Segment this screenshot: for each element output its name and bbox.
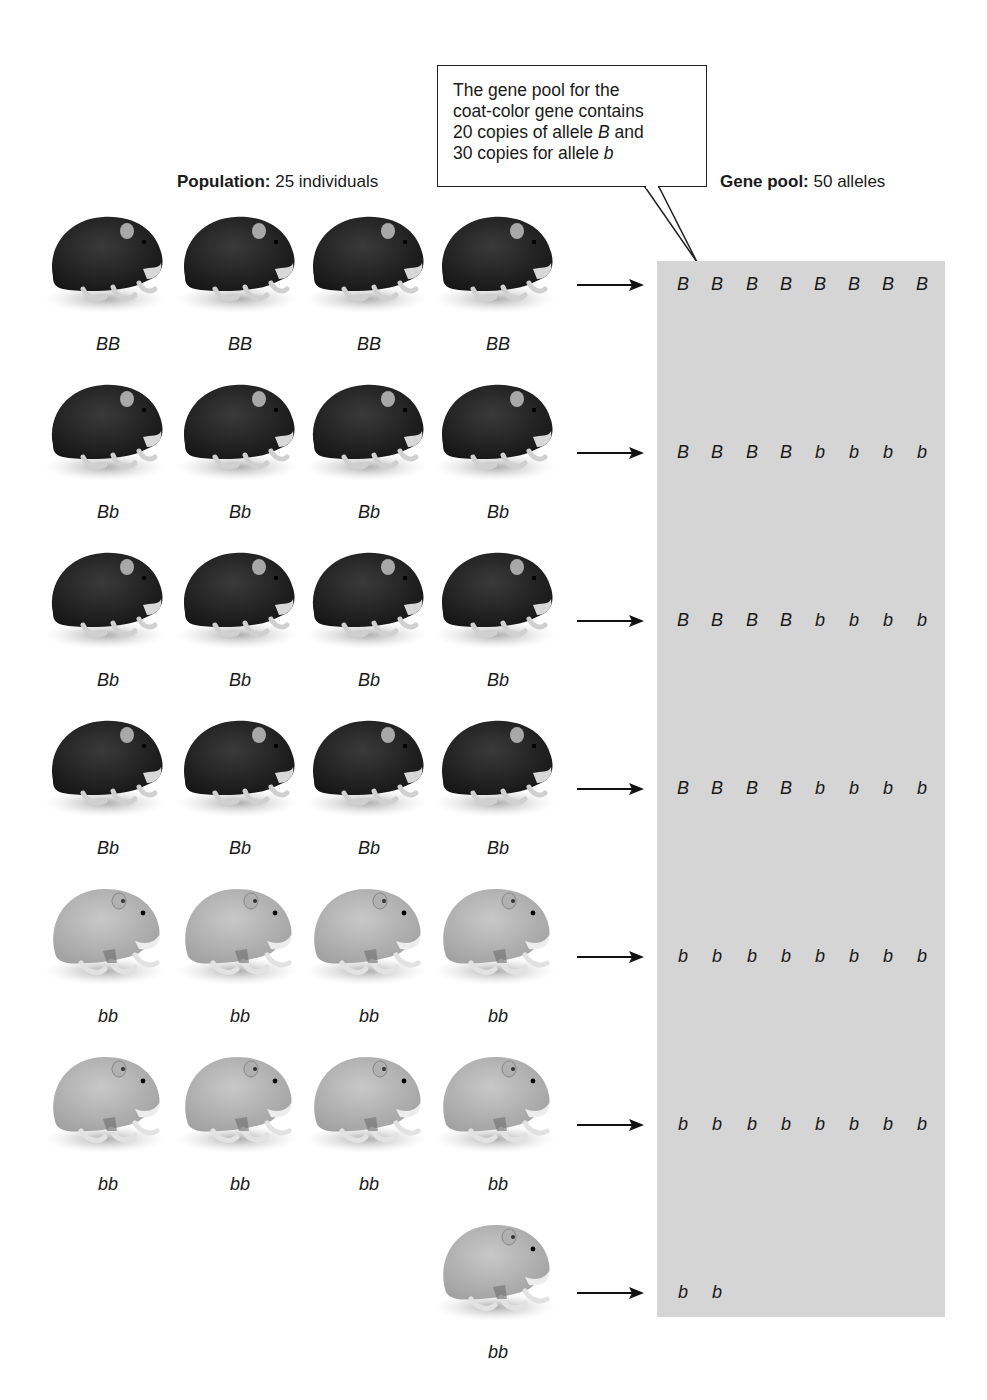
genotype-label: bb	[468, 1006, 528, 1027]
genotype-label: Bb	[78, 670, 138, 691]
genotype-label: BB	[210, 334, 270, 355]
allele: b	[912, 1114, 932, 1135]
genotype-label: Bb	[210, 502, 270, 523]
light-hamster	[43, 879, 173, 989]
allele: b	[878, 946, 898, 967]
allele: B	[742, 610, 762, 631]
genotype-label: BB	[468, 334, 528, 355]
allele: b	[673, 1282, 693, 1303]
allele: b	[673, 1114, 693, 1135]
allele: b	[673, 946, 693, 967]
allele: b	[912, 946, 932, 967]
light-hamster	[175, 1047, 305, 1157]
genotype-label: Bb	[210, 670, 270, 691]
allele: B	[742, 442, 762, 463]
allele: b	[912, 778, 932, 799]
dark-hamster	[433, 711, 563, 821]
population-heading: Population: 25 individuals	[177, 172, 378, 192]
allele: b	[844, 1114, 864, 1135]
callout-line-3: 20 copies of allele B and	[453, 122, 703, 143]
genotype-label: bb	[468, 1174, 528, 1195]
light-hamster	[433, 1047, 563, 1157]
genotype-label: BB	[78, 334, 138, 355]
genotype-label: bb	[468, 1342, 528, 1363]
allele: B	[776, 442, 796, 463]
genotype-label: Bb	[339, 838, 399, 859]
allele: b	[707, 1114, 727, 1135]
dark-hamster	[433, 375, 563, 485]
allele: b	[844, 442, 864, 463]
arrow-right-icon	[577, 1286, 647, 1300]
allele: b	[742, 946, 762, 967]
dark-hamster	[43, 543, 173, 653]
callout-line-4: 30 copies for allele b	[453, 143, 703, 164]
allele: b	[810, 610, 830, 631]
allele: B	[707, 610, 727, 631]
genotype-label: Bb	[468, 670, 528, 691]
dark-hamster	[433, 543, 563, 653]
light-hamster	[304, 879, 434, 989]
allele: B	[673, 610, 693, 631]
arrow-right-icon	[577, 950, 647, 964]
allele: B	[912, 274, 932, 295]
genotype-label: Bb	[210, 838, 270, 859]
allele: b	[844, 610, 864, 631]
gene-pool-heading: Gene pool: 50 alleles	[720, 172, 885, 192]
allele: b	[878, 442, 898, 463]
arrow-right-icon	[577, 614, 647, 628]
allele: B	[776, 610, 796, 631]
allele: B	[742, 778, 762, 799]
dark-hamster	[433, 207, 563, 317]
dark-hamster	[304, 375, 434, 485]
allele: B	[673, 442, 693, 463]
dark-hamster	[175, 375, 305, 485]
allele: B	[844, 274, 864, 295]
genotype-label: bb	[210, 1006, 270, 1027]
dark-hamster	[304, 543, 434, 653]
allele: b	[878, 1114, 898, 1135]
dark-hamster	[175, 543, 305, 653]
allele: B	[776, 274, 796, 295]
allele: B	[707, 274, 727, 295]
dark-hamster	[304, 711, 434, 821]
light-hamster	[304, 1047, 434, 1157]
genotype-label: bb	[78, 1006, 138, 1027]
allele: B	[742, 274, 762, 295]
allele: B	[707, 778, 727, 799]
allele: b	[844, 946, 864, 967]
arrow-right-icon	[577, 1118, 647, 1132]
arrow-right-icon	[577, 446, 647, 460]
dark-hamster	[304, 207, 434, 317]
callout-line-2: coat-color gene contains	[453, 101, 703, 122]
genotype-label: Bb	[339, 670, 399, 691]
callout-line-1: The gene pool for the	[453, 80, 703, 101]
genotype-label: Bb	[468, 502, 528, 523]
genotype-label: bb	[339, 1174, 399, 1195]
allele: b	[810, 778, 830, 799]
light-hamster	[175, 879, 305, 989]
dark-hamster	[175, 207, 305, 317]
genotype-label: Bb	[78, 502, 138, 523]
light-hamster	[433, 879, 563, 989]
allele: B	[673, 778, 693, 799]
allele: b	[776, 946, 796, 967]
allele: B	[673, 274, 693, 295]
allele: b	[810, 1114, 830, 1135]
light-hamster	[433, 1215, 563, 1325]
allele: b	[912, 442, 932, 463]
arrow-right-icon	[577, 782, 647, 796]
allele: b	[707, 1282, 727, 1303]
arrow-right-icon	[577, 278, 647, 292]
dark-hamster	[43, 207, 173, 317]
dark-hamster	[175, 711, 305, 821]
callout-text: The gene pool for the coat-color gene co…	[453, 80, 703, 164]
allele: b	[810, 946, 830, 967]
allele: B	[776, 778, 796, 799]
allele: b	[912, 610, 932, 631]
allele: b	[844, 778, 864, 799]
allele: B	[810, 274, 830, 295]
allele: b	[810, 442, 830, 463]
genotype-label: Bb	[339, 502, 399, 523]
dark-hamster	[43, 375, 173, 485]
dark-hamster	[43, 711, 173, 821]
